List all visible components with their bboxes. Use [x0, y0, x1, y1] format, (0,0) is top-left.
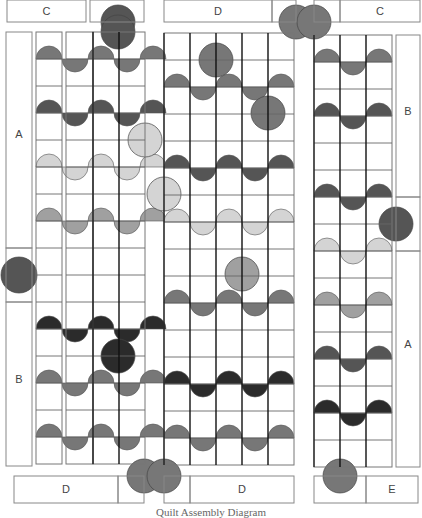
block-label: E	[388, 483, 395, 495]
strip-label: B	[15, 373, 22, 385]
strip-label: A	[404, 338, 412, 350]
diagram-caption: Quilt Assembly Diagram	[0, 506, 422, 518]
block-label: C	[376, 5, 384, 17]
block-label: C	[43, 5, 51, 17]
block-label: D	[62, 483, 70, 495]
block-label: D	[214, 5, 222, 17]
block-label: D	[238, 483, 246, 495]
strip-label: B	[404, 105, 411, 117]
strip-label: A	[15, 128, 23, 140]
